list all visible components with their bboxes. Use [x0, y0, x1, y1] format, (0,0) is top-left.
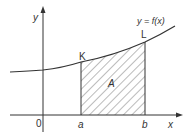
point-l-label: L [141, 29, 147, 40]
curve-label: y = f(x) [136, 16, 165, 26]
y-axis [41, 6, 46, 132]
origin-label: 0 [36, 118, 42, 129]
x-axis-arrow-icon [176, 113, 183, 118]
upper-bound-label: b [142, 119, 148, 130]
area-under-curve-diagram: y y = f(x) L K A 0 a b x [0, 0, 187, 139]
point-k-label: K [79, 51, 86, 62]
lower-bound-label: a [78, 119, 84, 130]
x-axis-label: x [167, 119, 174, 130]
region-a-label: A [107, 78, 115, 89]
y-axis-label: y [32, 12, 39, 23]
y-axis-arrow-icon [41, 6, 46, 13]
hatched-region-a [81, 30, 145, 115]
